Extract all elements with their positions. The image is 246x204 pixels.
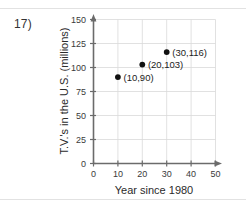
x-tick-label: 10 <box>113 169 123 179</box>
y-tick-labels-group: 0 25 50 75 100 125 150 <box>71 15 86 169</box>
y-tick-label: 150 <box>71 15 86 25</box>
gridlines-group <box>94 20 216 164</box>
data-points-group: (10,90) (20,103) (30,116) <box>115 47 207 83</box>
scatter-plot: 0 25 50 75 100 125 150 0 10 20 30 40 50 … <box>0 0 246 204</box>
y-tick-label: 100 <box>71 63 86 73</box>
worksheet-problem-panel: 17) <box>0 0 246 204</box>
x-tick-label: 30 <box>162 169 172 179</box>
y-axis-arrowhead <box>91 14 97 22</box>
y-tick-label: 50 <box>76 111 86 121</box>
data-point-label: (30,116) <box>172 47 207 58</box>
x-tick-label: 20 <box>137 169 147 179</box>
axes-group <box>91 14 222 166</box>
y-axis-title: T.V.'s in the U.S. (millions) <box>58 27 70 154</box>
y-tick-label: 0 <box>81 159 86 169</box>
x-tick-label: 50 <box>210 169 220 179</box>
data-point-marker <box>164 49 170 55</box>
y-tick-label: 125 <box>71 39 86 49</box>
y-tick-label: 25 <box>76 135 86 145</box>
x-axis-title: Year since 1980 <box>115 184 194 196</box>
y-tick-label: 75 <box>76 87 86 97</box>
data-point-label: (10,90) <box>124 72 154 83</box>
data-point-marker <box>139 62 145 68</box>
x-tick-label: 40 <box>186 169 196 179</box>
ticks-group <box>90 20 216 167</box>
x-tick-label: 0 <box>91 169 96 179</box>
data-point-label: (20,103) <box>148 59 183 70</box>
data-point-marker <box>115 74 121 80</box>
x-tick-labels-group: 0 10 20 30 40 50 <box>91 169 221 179</box>
